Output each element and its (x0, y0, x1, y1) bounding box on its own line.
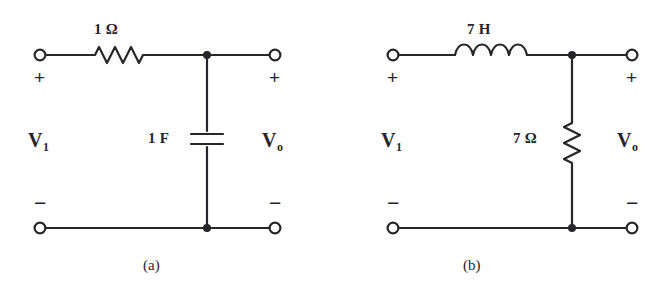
resistor-zigzag-vertical-icon (564, 118, 580, 168)
series-element-label-b: 7 H (467, 22, 491, 37)
caption-b: (b) (463, 258, 481, 273)
output-voltage-symbol-a: V (262, 129, 276, 151)
output-voltage-label-b: Vo (617, 130, 637, 150)
terminal-a-in-plus (35, 50, 46, 61)
terminal-a-in-minus (35, 223, 46, 234)
figure-canvas: 1 Ω 1 F + + − − V1 Vo (a) 7 H 7 Ω + + − … (0, 0, 650, 287)
shunt-element-label-a: 1 F (148, 131, 169, 146)
junction-dot-a-top (203, 51, 211, 59)
input-voltage-label-b: V1 (381, 130, 401, 150)
terminal-b-out-plus (627, 50, 638, 61)
terminal-a-out-plus (270, 50, 281, 61)
input-voltage-symbol-b: V (381, 129, 395, 151)
terminal-a-out-minus (270, 223, 281, 234)
output-voltage-symbol-b: V (617, 129, 631, 151)
shunt-element-label-b: 7 Ω (513, 131, 537, 146)
polarity-plus-b-input: + (387, 68, 398, 87)
junction-dot-b-bottom (568, 224, 576, 232)
resistor-zigzag-icon (90, 47, 148, 63)
polarity-plus-b-output: + (626, 68, 637, 87)
input-voltage-subscript-a: 1 (43, 140, 49, 154)
junction-dot-b-top (568, 51, 576, 59)
polarity-minus-a-output: − (269, 192, 281, 213)
output-voltage-label-a: Vo (262, 130, 282, 150)
polarity-minus-a-input: − (34, 192, 46, 213)
input-voltage-subscript-b: 1 (396, 140, 402, 154)
polarity-minus-b-output: − (626, 192, 638, 213)
input-voltage-label-a: V1 (28, 130, 48, 150)
caption-a: (a) (143, 258, 160, 273)
polarity-plus-a-output: + (269, 68, 280, 87)
polarity-minus-b-input: − (387, 192, 399, 213)
output-voltage-subscript-a: o (277, 140, 283, 154)
input-voltage-symbol-a: V (28, 129, 42, 151)
series-element-label-a: 1 Ω (94, 22, 118, 37)
circuit-a-schematic (0, 0, 650, 287)
terminal-b-in-plus (388, 50, 399, 61)
terminal-b-out-minus (627, 223, 638, 234)
terminal-b-in-minus (388, 223, 399, 234)
inductor-coil-icon (455, 45, 527, 56)
junction-dot-a-bottom (203, 224, 211, 232)
polarity-plus-a-input: + (34, 68, 45, 87)
output-voltage-subscript-b: o (632, 140, 638, 154)
